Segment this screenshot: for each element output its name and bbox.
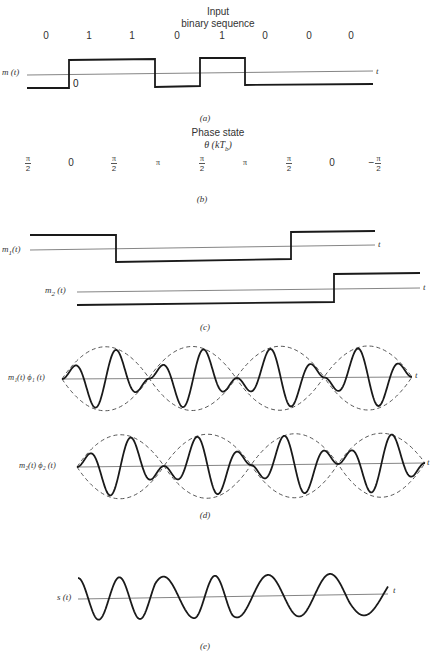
- panel-c-axis-t1: t: [378, 239, 381, 249]
- phase-state-5: π: [235, 158, 255, 167]
- panel-e-axis-t: t: [393, 585, 396, 595]
- m2-phi2-plot: [77, 433, 425, 499]
- phase-state-6: π2: [279, 154, 299, 173]
- s-t-plot: [78, 574, 388, 620]
- caption-e: (e): [190, 641, 220, 651]
- panel-d-axis-t1: t: [415, 370, 418, 380]
- panel-c-axis-t2: t: [423, 282, 426, 292]
- caption-c: (c): [190, 322, 220, 332]
- m1-waveform: [30, 231, 375, 262]
- theta-close: ): [228, 139, 231, 150]
- theta-k: θ (kT: [204, 139, 225, 150]
- m1-phi1-plot: [62, 346, 412, 411]
- phase-state-7: 0: [322, 158, 342, 167]
- phase-state-2: π2: [104, 154, 124, 173]
- m1-phi1-label: m₁(t) ϕ₁ (t): [8, 372, 45, 382]
- m-t-waveform: [27, 58, 373, 88]
- m1-label: m1(t): [2, 244, 21, 257]
- phase-state-4: π2: [192, 154, 212, 173]
- m2-phi2-label: m₂(t) ϕ₂ (t): [19, 460, 56, 470]
- phase-state-1: 0: [61, 158, 81, 167]
- panel-d-axis-t2: t: [427, 457, 430, 467]
- phase-state-0: π2: [18, 154, 38, 173]
- caption-d: (d): [190, 510, 220, 520]
- m1-label-suffix: (t): [12, 244, 21, 254]
- panel-b-title-line1: Phase state: [168, 127, 268, 139]
- phase-state-8: −π2: [365, 154, 385, 173]
- panel-b-title: Phase state θ (kTb): [168, 127, 268, 155]
- m2-axis: [77, 288, 420, 292]
- m2-label: m2 (t): [45, 285, 66, 298]
- s-t-label: s (t): [57, 592, 71, 602]
- phase-state-3: π: [148, 158, 168, 167]
- m1-axis: [30, 245, 375, 250]
- m2-label-suffix: (t): [55, 285, 66, 295]
- caption-b: (b): [187, 194, 217, 204]
- panel-b-title-line2: θ (kTb): [168, 139, 268, 155]
